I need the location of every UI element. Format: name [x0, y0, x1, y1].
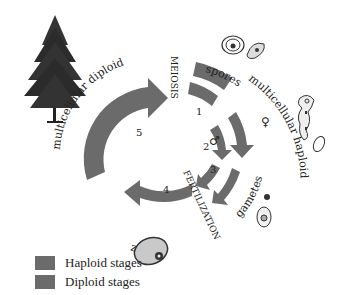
legend: Haploid stages Diploid stages	[35, 255, 142, 293]
gamete-cell-icon	[257, 207, 271, 227]
female-symbol-icon: ♀	[261, 115, 270, 129]
egg-cell-icon	[311, 135, 327, 154]
step-number-1: 1	[196, 106, 202, 117]
spore-cell-icon	[222, 36, 244, 54]
gametes-arc-inner	[196, 164, 220, 190]
diploid-arc-5	[84, 78, 168, 180]
legend-label-haploid: Haploid stages	[65, 255, 142, 271]
haploid-swatch	[35, 256, 55, 270]
pine-tree-icon	[24, 15, 86, 123]
step-number-3: 3	[210, 164, 216, 175]
label-meiosis: MEIOSIS	[169, 56, 179, 99]
step-number-5: 5	[136, 127, 142, 138]
sperm-cell-icon	[264, 194, 270, 200]
male-symbol-icon: ♂	[209, 134, 220, 148]
spore-germinating-icon	[247, 43, 264, 58]
spores-arc-inner	[188, 82, 218, 106]
legend-label-diploid: Diploid stages	[65, 274, 140, 290]
legend-item-haploid: Haploid stages	[35, 255, 142, 271]
legend-item-diploid: Diploid stages	[35, 274, 142, 290]
female-arc	[228, 112, 254, 158]
life-cycle-diagram: multicellular diploid spores multicellul…	[0, 0, 342, 295]
haploid-organism-icon	[298, 95, 314, 140]
diploid-swatch	[35, 275, 55, 289]
zygote-arc-4	[124, 180, 192, 206]
step-number-4: 4	[163, 184, 169, 195]
